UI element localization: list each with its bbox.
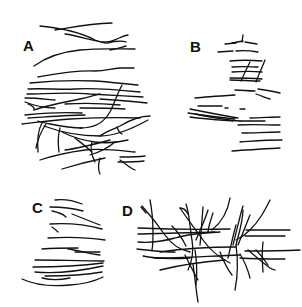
line-drawing [0,0,302,307]
panel-a-lines [22,23,150,174]
panel-d-lines [137,198,300,302]
panel-b-lines [188,35,282,151]
panel-c-lines [22,200,105,286]
